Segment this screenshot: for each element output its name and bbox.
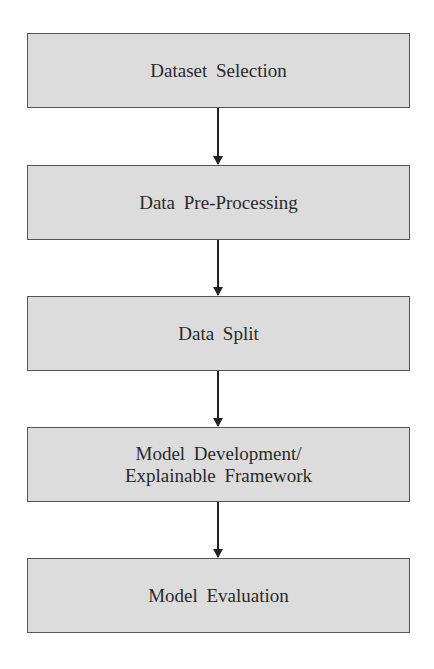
step-label: Model Development/ Explainable Framework xyxy=(125,443,312,487)
arrow-down-icon xyxy=(217,108,219,164)
step-data-split: Data Split xyxy=(27,296,410,371)
arrow-down-icon xyxy=(217,240,219,295)
step-label: Data Split xyxy=(178,323,259,345)
step-label: Dataset Selection xyxy=(150,60,286,82)
step-data-preprocessing: Data Pre-Processing xyxy=(27,165,410,240)
step-label: Model Evaluation xyxy=(148,585,289,607)
arrow-down-icon xyxy=(217,371,219,426)
step-label: Data Pre-Processing xyxy=(139,192,298,214)
step-dataset-selection: Dataset Selection xyxy=(27,33,410,108)
step-model-development: Model Development/ Explainable Framework xyxy=(27,427,410,502)
step-model-evaluation: Model Evaluation xyxy=(27,558,410,633)
arrow-down-icon xyxy=(217,502,219,557)
